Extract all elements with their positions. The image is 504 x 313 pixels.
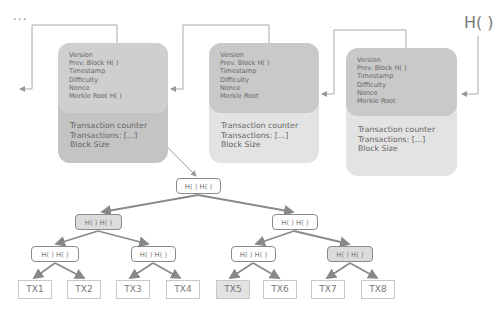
field-merkle-root: Merkle Root bbox=[220, 92, 319, 100]
field-transactions: Transactions: [...] bbox=[358, 135, 457, 145]
block-1-header: Version Prev. Block H( ) Timestamp Diffi… bbox=[58, 43, 168, 113]
tx-leaf-5: TX5 bbox=[216, 280, 250, 299]
merkle-node-l2-1: H( ) H( ) bbox=[75, 214, 122, 230]
field-transaction-counter: Transaction counter bbox=[358, 125, 457, 135]
block-2-body: Transaction counter Transactions: [...] … bbox=[209, 121, 319, 163]
ellipsis-label: ... bbox=[13, 9, 27, 23]
merkle-root-node: H( ) H( ) bbox=[176, 178, 221, 194]
field-timestamp: Timestamp bbox=[69, 67, 168, 75]
field-version: Version bbox=[220, 51, 319, 59]
field-transaction-counter: Transaction counter bbox=[221, 121, 319, 131]
merkle-node-l2-2: H( ) H( ) bbox=[272, 214, 318, 230]
field-block-size: Block Size bbox=[70, 140, 168, 150]
field-difficulty: Difficulty bbox=[220, 76, 319, 84]
field-prev-block-hash: Prev. Block H( ) bbox=[220, 59, 319, 67]
field-timestamp: Timestamp bbox=[220, 67, 319, 75]
block-3-header: Version Prev. Block H( ) Timestamp Diffi… bbox=[346, 48, 457, 116]
merkle-node-l3-4: H( ) H( ) bbox=[327, 246, 373, 262]
merkle-node-l3-1: H( ) H( ) bbox=[31, 246, 79, 262]
field-timestamp: Timestamp bbox=[357, 72, 457, 80]
field-transactions: Transactions: [...] bbox=[221, 131, 319, 141]
field-nonce: Nonce bbox=[69, 84, 168, 92]
merkle-node-l3-3: H( ) H( ) bbox=[231, 246, 276, 262]
field-difficulty: Difficulty bbox=[69, 76, 168, 84]
field-nonce: Nonce bbox=[220, 84, 319, 92]
field-prev-block-hash: Prev. Block H( ) bbox=[357, 64, 457, 72]
block-3: Version Prev. Block H( ) Timestamp Diffi… bbox=[346, 48, 457, 176]
field-prev-block-hash: Prev. Block H( ) bbox=[69, 59, 168, 67]
block-3-body: Transaction counter Transactions: [...] … bbox=[346, 125, 457, 176]
field-block-size: Block Size bbox=[358, 144, 457, 154]
tx-leaf-7: TX7 bbox=[311, 280, 345, 299]
field-merkle-root: Merkle Root bbox=[357, 97, 457, 105]
tx-leaf-6: TX6 bbox=[263, 280, 297, 299]
block-1: Version Prev. Block H( ) Timestamp Diffi… bbox=[58, 43, 168, 163]
field-block-size: Block Size bbox=[221, 140, 319, 150]
tx-leaf-8: TX8 bbox=[361, 280, 395, 299]
field-merkle-root: Merkle Root H( ) bbox=[69, 92, 168, 100]
tx-leaf-2: TX2 bbox=[67, 280, 101, 299]
field-transaction-counter: Transaction counter bbox=[70, 121, 168, 131]
merkle-node-l3-2: H( ) H( ) bbox=[131, 246, 176, 262]
hash-function-label: H( ) bbox=[464, 13, 494, 32]
tx-leaf-3: TX3 bbox=[116, 280, 150, 299]
field-difficulty: Difficulty bbox=[357, 81, 457, 89]
field-version: Version bbox=[357, 56, 457, 64]
block-2: Version Prev. Block H( ) Timestamp Diffi… bbox=[209, 43, 319, 163]
field-transactions: Transactions: [...] bbox=[70, 131, 168, 141]
field-nonce: Nonce bbox=[357, 89, 457, 97]
block-2-header: Version Prev. Block H( ) Timestamp Diffi… bbox=[209, 43, 319, 113]
tx-leaf-4: TX4 bbox=[166, 280, 200, 299]
tx-leaf-1: TX1 bbox=[18, 280, 52, 299]
field-version: Version bbox=[69, 51, 168, 59]
block-1-body: Transaction counter Transactions: [...] … bbox=[58, 121, 168, 163]
